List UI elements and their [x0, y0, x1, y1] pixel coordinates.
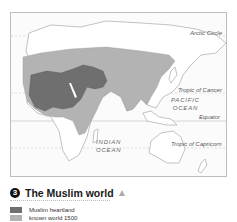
legend-label: Muslim heartland	[29, 207, 75, 213]
triangle-up-icon	[119, 190, 125, 196]
legend-label: known world 1500	[29, 215, 77, 221]
legend-swatch-known-world-1500	[10, 215, 22, 221]
map-frame: Arctic Circle Tropic of Cancer PACIFIC O…	[10, 12, 227, 177]
new-zealand-landmass	[198, 159, 207, 173]
caption-divider	[10, 200, 110, 201]
indian-ocean-label: INDIAN OCEAN	[96, 139, 121, 155]
caption-number-badge: 3	[10, 188, 20, 198]
australia-landmass	[149, 131, 185, 163]
pacific-ocean-label: PACIFIC OCEAN	[171, 97, 200, 113]
map-caption: 3 The Muslim world	[10, 186, 125, 199]
legend-item-known-world-1500: known world 1500	[10, 214, 77, 221]
arctic-circle-label: Arctic Circle	[190, 30, 222, 36]
tropic-of-capricorn-label: Tropic of Capricorn	[171, 141, 222, 147]
caption-title: The Muslim world	[25, 187, 114, 199]
southeast-asia-islands	[143, 111, 177, 125]
legend-item-muslim-heartland: Muslim heartland	[10, 206, 75, 213]
legend-swatch-muslim-heartland	[10, 207, 22, 213]
tropic-of-cancer-label: Tropic of Cancer	[178, 87, 222, 93]
equator-label: Equator	[199, 114, 220, 120]
